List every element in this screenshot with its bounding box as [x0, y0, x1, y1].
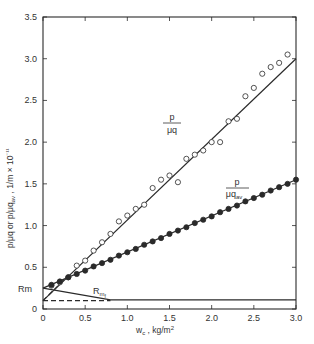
data-points — [49, 52, 299, 288]
x-axis-label: wc , kg/m2 — [135, 325, 175, 336]
open-data-point — [277, 60, 282, 65]
open-data-point — [91, 248, 96, 253]
chart: 00.51.01.52.02.53.000.51.01.52.02.53.03.… — [0, 0, 314, 344]
x-tick-label: 0.5 — [79, 313, 92, 323]
svg-text:μq: μq — [167, 125, 177, 135]
filled-data-point — [285, 181, 290, 186]
y-tick-label: 2.0 — [24, 137, 37, 147]
fit-line — [43, 59, 296, 301]
open-data-point — [158, 177, 163, 182]
series1-label: p μq — [163, 112, 181, 135]
filled-data-point — [226, 206, 231, 211]
open-data-point — [99, 240, 104, 245]
filled-data-point — [192, 220, 197, 225]
open-data-point — [268, 64, 273, 69]
svg-text:p: p — [169, 112, 174, 122]
x-tick-label: 2.5 — [248, 313, 261, 323]
open-data-point — [116, 219, 121, 224]
filled-data-point — [99, 261, 104, 266]
y-tick-label: 3.5 — [24, 12, 37, 22]
open-data-point — [133, 206, 138, 211]
filled-data-point — [83, 268, 88, 273]
open-data-point — [184, 156, 189, 161]
filled-data-point — [175, 228, 180, 233]
x-tick-label: 1.5 — [163, 313, 176, 323]
open-data-point — [226, 119, 231, 124]
plot-frame — [43, 17, 296, 309]
x-tick-label: 2.0 — [205, 313, 218, 323]
filled-data-point — [201, 217, 206, 222]
x-tick-label: 0 — [40, 313, 45, 323]
filled-data-point — [167, 231, 172, 236]
filled-data-point — [116, 253, 121, 258]
filled-data-point — [142, 242, 147, 247]
filled-data-point — [293, 177, 298, 182]
filled-data-point — [108, 257, 113, 262]
x-tick-label: 1.0 — [121, 313, 134, 323]
open-data-point — [234, 116, 239, 121]
y-axis-label: p/μq or p/μqav , 1/m × 10⁻¹¹ — [5, 149, 16, 248]
open-data-point — [251, 85, 256, 90]
filled-data-point — [234, 203, 239, 208]
filled-data-point — [209, 214, 214, 219]
open-data-point — [150, 185, 155, 190]
filled-data-point — [218, 210, 223, 215]
open-data-point — [175, 180, 180, 185]
svg-text:μqav: μqav — [226, 189, 243, 200]
plot-axes — [43, 17, 296, 309]
open-data-point — [243, 94, 248, 99]
filled-data-point — [49, 282, 54, 287]
filled-data-point — [57, 279, 62, 284]
y-tick-label: 0.5 — [24, 262, 37, 272]
filled-data-point — [133, 246, 138, 251]
fit-lines — [43, 59, 296, 301]
y-tick-label: 2.5 — [24, 95, 37, 105]
filled-data-point — [74, 271, 79, 276]
filled-data-point — [277, 185, 282, 190]
open-data-point — [108, 231, 113, 236]
filled-data-point — [91, 264, 96, 269]
filled-data-point — [66, 275, 71, 280]
filled-data-point — [125, 250, 130, 255]
annotations: Rm Rmf p μq p μqav wc , kg/m2 p/μq or p/… — [5, 112, 249, 336]
open-data-point — [218, 140, 223, 145]
filled-data-point — [184, 225, 189, 230]
filled-data-point — [260, 192, 265, 197]
rm-label: Rm — [18, 284, 32, 294]
filled-data-point — [243, 199, 248, 204]
filled-data-point — [150, 239, 155, 244]
series2-label: p μqav — [226, 177, 249, 200]
y-tick-label: 1.5 — [24, 179, 37, 189]
open-data-point — [201, 148, 206, 153]
open-data-point — [209, 140, 214, 145]
open-data-point — [125, 213, 130, 218]
filled-data-point — [251, 195, 256, 200]
filled-data-point — [268, 188, 273, 193]
y-tick-label: 0 — [32, 304, 37, 314]
y-tick-label: 3.0 — [24, 54, 37, 64]
y-tick-label: 1.0 — [24, 221, 37, 231]
filled-data-point — [158, 235, 163, 240]
open-data-point — [260, 71, 265, 76]
open-data-point — [167, 173, 172, 178]
open-data-point — [192, 152, 197, 157]
open-data-point — [74, 263, 79, 268]
svg-text:p: p — [234, 177, 239, 187]
open-data-point — [83, 258, 88, 263]
curve-line — [43, 288, 296, 300]
open-data-point — [142, 202, 147, 207]
open-data-point — [285, 52, 290, 57]
x-tick-label: 3.0 — [290, 313, 303, 323]
